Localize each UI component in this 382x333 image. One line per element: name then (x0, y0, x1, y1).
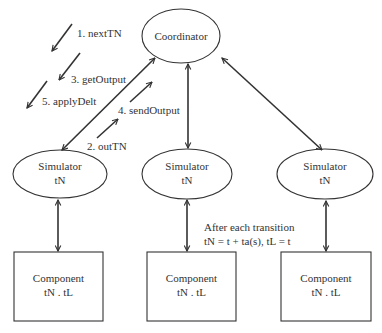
component-time-label: tN . tL (44, 286, 73, 298)
annotation-line-1: After each transition (204, 221, 295, 233)
message-label: 1. nextTN (77, 27, 122, 39)
message-label: 4. sendOutput (118, 104, 180, 116)
message-1: 1. nextTN (52, 24, 122, 51)
message-label: 3. getOutput (71, 73, 126, 85)
message-5: 5. applyDelt (27, 81, 96, 108)
message-arrow-up-icon (97, 119, 118, 138)
component-node-middle: Component tN . tL (147, 252, 236, 321)
coordinator-label: Coordinator (154, 30, 207, 42)
component-label: Component (33, 272, 84, 284)
message-4: 4. sendOutput (118, 82, 180, 116)
message-arrow-up-icon (130, 82, 152, 102)
component-label: Component (166, 272, 217, 284)
message-label: 2. outTN (87, 140, 127, 152)
coordinator-simulator-diagram: Coordinator Simulator tN Simulator tN Si… (0, 0, 382, 333)
component-label: Component (300, 272, 351, 284)
simulator-label: Simulator (38, 160, 82, 172)
simulator-tn-label: tN (320, 174, 331, 186)
message-2: 2. outTN (87, 119, 127, 152)
simulator-label: Simulator (303, 160, 347, 172)
coordinator-simulator-right-arrow (222, 58, 322, 150)
message-3: 3. getOutput (59, 53, 126, 85)
component-node-right: Component tN . tL (281, 252, 371, 321)
component-time-label: tN . tL (177, 286, 206, 298)
simulator-tn-label: tN (55, 174, 66, 186)
message-label: 5. applyDelt (42, 95, 96, 107)
coordinator-node: Coordinator (142, 9, 220, 63)
simulator-label: Simulator (165, 160, 209, 172)
component-time-label: tN . tL (311, 286, 340, 298)
annotation-line-2: tN = t + ta(s), tL = t (204, 235, 291, 248)
simulator-tn-label: tN (182, 174, 193, 186)
simulator-node-middle: Simulator tN (142, 149, 232, 199)
simulator-node-right: Simulator tN (277, 149, 373, 199)
message-arrow-down-icon (52, 24, 72, 51)
component-node-left: Component tN . tL (14, 252, 103, 321)
simulator-node-left: Simulator tN (13, 150, 107, 198)
transition-annotation: After each transition tN = t + ta(s), tL… (204, 221, 295, 248)
